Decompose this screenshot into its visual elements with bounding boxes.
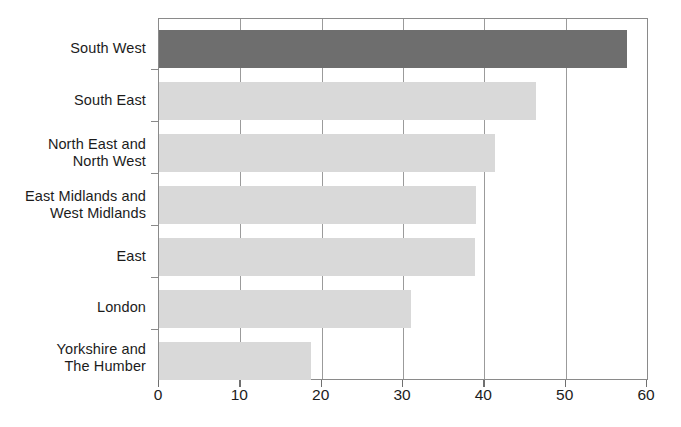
horizontal-bar-chart: South West South East North East and Nor… <box>0 0 681 427</box>
category-label-line2: The Humber <box>0 358 146 375</box>
plot-area <box>158 18 648 380</box>
category-label-line1: South West <box>70 40 146 56</box>
x-axis-tick-labels: 0 10 20 30 40 50 60 <box>0 386 681 414</box>
y-axis-tick <box>151 173 158 174</box>
category-labels: South West South East North East and Nor… <box>0 18 152 380</box>
category-label-line1: East Midlands and <box>25 188 146 204</box>
x-tick-label-50: 50 <box>535 386 595 404</box>
y-axis-tick <box>151 329 158 330</box>
x-tick-label-30: 30 <box>372 386 432 404</box>
category-label-line1: South East <box>74 92 146 108</box>
category-label-south-west: South West <box>0 40 146 57</box>
x-tick-label-60: 60 <box>616 386 676 404</box>
bar-south-east <box>159 82 536 120</box>
bar-london <box>159 290 411 328</box>
y-axis-tick <box>151 225 158 226</box>
gridline-40 <box>484 19 485 379</box>
category-label-line1: Yorkshire and <box>57 341 146 357</box>
category-label-line1: London <box>97 299 146 315</box>
y-axis-tick <box>151 121 158 122</box>
bar-east <box>159 238 475 276</box>
category-label-east-midlands-and-west-midlands: East Midlands and West Midlands <box>0 188 146 222</box>
category-label-london: London <box>0 299 146 316</box>
category-label-east: East <box>0 248 146 265</box>
bar-south-west <box>159 30 627 68</box>
bar-yorkshire-and-the-humber <box>159 342 311 380</box>
gridline-50 <box>566 19 567 379</box>
x-tick-label-40: 40 <box>453 386 513 404</box>
bar-east-midlands-and-west-midlands <box>159 186 476 224</box>
y-axis-tick <box>151 69 158 70</box>
x-tick-label-10: 10 <box>209 386 269 404</box>
x-tick-label-0: 0 <box>128 386 188 404</box>
category-label-yorkshire-and-the-humber: Yorkshire and The Humber <box>0 341 146 375</box>
category-label-line2: North West <box>0 153 146 170</box>
category-label-line1: North East and <box>48 136 146 152</box>
x-tick-label-20: 20 <box>291 386 351 404</box>
category-label-north-east-and-north-west: North East and North West <box>0 136 146 170</box>
bar-north-east-and-north-west <box>159 134 495 172</box>
category-label-line2: West Midlands <box>0 205 146 222</box>
category-label-line1: East <box>117 248 146 264</box>
y-axis-tick <box>151 277 158 278</box>
category-label-south-east: South East <box>0 92 146 109</box>
